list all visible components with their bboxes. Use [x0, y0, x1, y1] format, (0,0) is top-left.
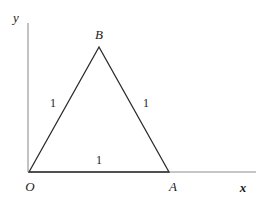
side-label-ob: 1 — [50, 97, 56, 109]
vertex-label-b: B — [95, 28, 103, 41]
vertex-label-a: A — [169, 180, 177, 193]
vertex-label-o: O — [25, 180, 34, 193]
side-label-oa: 1 — [96, 154, 102, 166]
x-axis-label: x — [240, 181, 247, 194]
y-axis-label: y — [13, 11, 19, 24]
figure-canvas — [0, 0, 264, 198]
geometry-figure: y x O A B 1 1 1 — [0, 0, 264, 198]
side-label-ab: 1 — [143, 97, 149, 109]
